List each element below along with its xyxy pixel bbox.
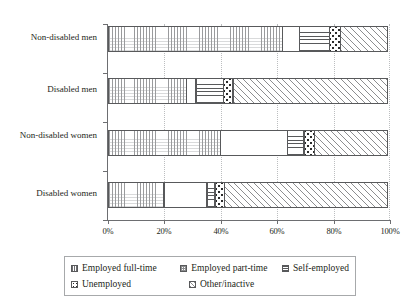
y-axis-tick — [103, 73, 108, 74]
bar-segment-self-employed — [287, 130, 304, 156]
x-axis-tick — [277, 220, 278, 224]
legend-item-employed-part-time: Employed part-time — [180, 263, 282, 273]
legend-swatch-icon — [282, 265, 289, 272]
y-axis-tick — [103, 24, 108, 25]
legend-item-label: Employed part-time — [191, 263, 267, 273]
legend-item-other-inactive: Other/inactive — [189, 279, 299, 289]
legend-item-self-employed: Self-employed — [282, 263, 349, 273]
x-axis-tick-label-0: 0% — [88, 226, 128, 236]
x-axis-tick — [334, 220, 335, 224]
bar-segment-other-inactive — [224, 182, 388, 208]
bar-segment-employed-full-time — [108, 26, 283, 52]
x-axis-tick — [108, 220, 109, 224]
legend-swatch-icon — [71, 265, 78, 272]
legend-item-label: Self-employed — [293, 263, 349, 273]
x-axis-tick-label-20: 20% — [144, 226, 184, 236]
legend-swatch-icon — [180, 265, 187, 272]
legend-swatch-icon — [189, 281, 196, 288]
legend: Employed full-time Employed part-time Se… — [64, 256, 356, 296]
bar-segment-other-inactive — [233, 78, 389, 104]
y-axis-label-non-disabled-men: Non-disabled men — [0, 32, 97, 43]
legend-item-label: Unemployed — [82, 279, 131, 289]
bar-segment-employed-part-time — [282, 26, 299, 52]
legend-swatch-icon — [71, 281, 78, 288]
bar-row — [108, 182, 390, 208]
legend-item-label: Employed full-time — [82, 263, 157, 273]
y-axis-tick — [103, 171, 108, 172]
bar-row — [108, 26, 390, 52]
bar-segment-employed-part-time — [220, 130, 288, 156]
bar-segment-self-employed — [196, 78, 224, 104]
y-axis-label-disabled-women: Disabled women — [0, 188, 97, 199]
x-axis-tick-label-60: 60% — [257, 226, 297, 236]
x-axis-tick-label-40: 40% — [201, 226, 241, 236]
legend-row: Employed full-time Employed part-time Se… — [71, 260, 349, 276]
bar-segment-unemployed — [304, 130, 315, 156]
legend-item-unemployed: Unemployed — [71, 279, 189, 289]
x-axis-tick — [164, 220, 165, 224]
x-axis-tick — [221, 220, 222, 224]
bar-segment-employed-full-time — [108, 130, 221, 156]
x-axis-line — [107, 220, 391, 221]
x-axis-tick-label-100: 100% — [370, 226, 410, 236]
stacked-bar-chart: Non-disabled men Disabled men Non-disabl… — [0, 0, 415, 304]
y-axis-tick — [103, 122, 108, 123]
bar-segment-other-inactive — [314, 130, 387, 156]
bar-segment-unemployed — [329, 26, 340, 52]
bar-row — [108, 130, 390, 156]
legend-item-employed-full-time: Employed full-time — [71, 263, 180, 273]
y-axis-label-non-disabled-women: Non-disabled women — [0, 130, 97, 141]
bar-row — [108, 78, 390, 104]
bar-segment-employed-full-time — [108, 182, 164, 208]
bar-segment-other-inactive — [340, 26, 388, 52]
x-axis-tick-label-80: 80% — [314, 226, 354, 236]
bar-segment-employed-full-time — [108, 78, 187, 104]
bar-segment-self-employed — [299, 26, 330, 52]
x-axis-tick — [390, 220, 391, 224]
legend-item-label: Other/inactive — [200, 279, 254, 289]
legend-row: Unemployed Other/inactive — [71, 276, 349, 292]
plot-area — [108, 24, 390, 220]
y-axis-label-disabled-men: Disabled men — [0, 84, 97, 95]
bar-segment-employed-part-time — [164, 182, 208, 208]
